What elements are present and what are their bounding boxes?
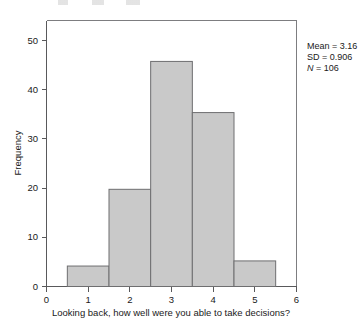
x-axis: 0123456 xyxy=(44,287,299,305)
x-tick-label-2: 2 xyxy=(127,294,132,305)
y-tick-label-50: 50 xyxy=(27,35,38,46)
x-tick-label-1: 1 xyxy=(86,294,91,305)
stat-n-value: = 106 xyxy=(314,63,339,73)
x-tick-label-6: 6 xyxy=(294,294,299,305)
histogram-figure: 0 10 20 30 40 50 Frequency 0123456 Looki… xyxy=(0,0,362,323)
histogram-bar-4 xyxy=(192,113,234,287)
stats-annotation: Mean = 3.16 SD = 0.906 N = 106 xyxy=(307,41,357,73)
x-tick-label-0: 0 xyxy=(44,294,49,305)
y-axis: 0 10 20 30 40 50 xyxy=(27,35,46,292)
x-tick-label-3: 3 xyxy=(169,294,174,305)
x-tick-label-4: 4 xyxy=(211,294,216,305)
histogram-bar-2 xyxy=(109,189,151,286)
stat-sd: SD = 0.906 xyxy=(307,52,352,62)
bar-group xyxy=(67,61,275,286)
y-tick-label-0: 0 xyxy=(33,281,38,292)
y-tick-label-10: 10 xyxy=(27,231,38,242)
histogram-chart: 0 10 20 30 40 50 Frequency 0123456 Looki… xyxy=(0,0,362,323)
x-tick-label-5: 5 xyxy=(252,294,257,305)
y-tick-label-30: 30 xyxy=(27,133,38,144)
histogram-bar-3 xyxy=(151,61,193,286)
histogram-bar-1 xyxy=(67,266,109,286)
y-tick-label-20: 20 xyxy=(27,182,38,193)
y-tick-label-40: 40 xyxy=(27,84,38,95)
histogram-bar-5 xyxy=(234,261,276,287)
y-axis-title: Frequency xyxy=(12,130,23,175)
x-axis-title: Looking back, how well were you able to … xyxy=(52,307,290,318)
stat-n: N = 106 xyxy=(307,63,339,73)
stat-mean: Mean = 3.16 xyxy=(307,41,357,51)
